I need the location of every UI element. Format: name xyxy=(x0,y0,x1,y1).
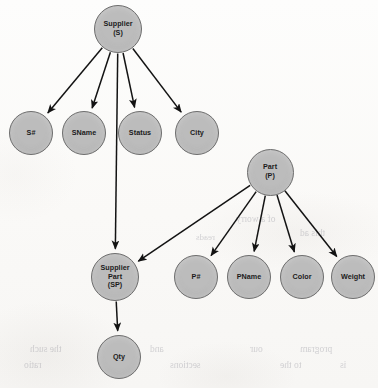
node-layer: Supplier (S)S#SNameStatusCityPart (P)Sup… xyxy=(0,0,378,388)
node-part[interactable]: Part (P) xyxy=(247,149,294,196)
node-label-weight: Weight xyxy=(341,272,365,281)
node-sname[interactable]: SName xyxy=(62,111,106,155)
node-label-supplier: Supplier (S) xyxy=(103,20,132,37)
node-label-qty: Qty xyxy=(113,352,125,361)
node-label-snum: S# xyxy=(27,128,36,137)
node-supplier[interactable]: Supplier (S) xyxy=(94,5,142,53)
node-label-status: Status xyxy=(129,128,151,137)
node-label-sname: SName xyxy=(72,128,97,137)
node-label-part: Part (P) xyxy=(263,163,277,180)
node-pnum[interactable]: P# xyxy=(174,255,218,299)
node-label-supplierpart: Supplier Part (SP) xyxy=(100,264,129,290)
node-qty[interactable]: Qty xyxy=(97,335,141,379)
schema-diagram: of a worrythis adreadsthe suchandourprog… xyxy=(0,0,378,388)
node-label-color: Color xyxy=(292,272,311,281)
node-pname[interactable]: PName xyxy=(227,255,271,299)
node-label-city: City xyxy=(190,128,204,137)
node-city[interactable]: City xyxy=(175,111,219,155)
node-snum[interactable]: S# xyxy=(9,111,53,155)
node-status[interactable]: Status xyxy=(118,111,162,155)
node-label-pname: PName xyxy=(237,272,262,281)
node-label-pnum: P# xyxy=(192,272,201,281)
node-weight[interactable]: Weight xyxy=(331,255,375,299)
node-supplierpart[interactable]: Supplier Part (SP) xyxy=(91,253,139,301)
node-color[interactable]: Color xyxy=(280,255,324,299)
